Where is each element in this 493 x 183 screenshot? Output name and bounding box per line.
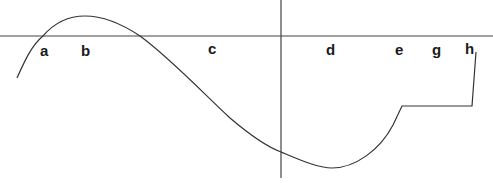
label-d: d xyxy=(326,41,335,58)
label-e: e xyxy=(395,41,403,58)
label-c: c xyxy=(208,40,216,57)
label-a: a xyxy=(40,42,49,59)
function-diagram: a b c d e g h xyxy=(0,0,493,183)
label-g: g xyxy=(432,41,441,58)
function-curve xyxy=(17,16,476,168)
label-b: b xyxy=(81,42,90,59)
label-h: h xyxy=(465,40,474,57)
